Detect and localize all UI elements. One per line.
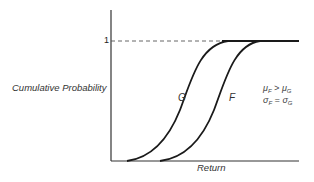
y-tick-one: 1 [104,35,109,45]
annotation-sigma: σF = σG [263,95,292,106]
sigma-g-sub: G [288,100,293,106]
curve-f-label: F [229,92,235,103]
annotation-mean: μF > μG [263,83,291,94]
x-axis-label: Return [197,162,226,173]
mu-op: > [272,83,282,93]
mu-g-sub: G [287,88,292,94]
y-axis-label: Cumulative Probability [12,82,107,93]
curve-g-label: G [178,92,186,103]
sigma-op: = [272,95,282,105]
curve-f [160,41,260,161]
